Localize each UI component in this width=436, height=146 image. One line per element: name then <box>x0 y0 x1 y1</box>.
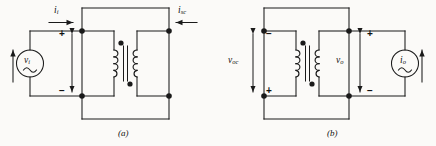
panel-b-dot-primary <box>300 40 305 45</box>
panel-a-dot-primary <box>118 40 123 45</box>
panel-b-voc-bottom-sign: + <box>266 86 272 96</box>
panel-a-dot-secondary <box>127 81 132 86</box>
circuit-diagram-svg <box>0 0 436 146</box>
caption-panel-a: (a) <box>118 128 129 138</box>
panel-b-node-top-right <box>346 28 352 34</box>
label-input-current: ii <box>54 6 58 16</box>
label-short-circuit-current: isc <box>178 6 186 16</box>
panel-b-dot-secondary <box>309 81 314 86</box>
label-output-voltage: vo <box>336 56 343 66</box>
panel-a-minus-sign: − <box>59 86 65 96</box>
label-source-current-io: io <box>400 56 406 66</box>
panel-a-node-top-left <box>79 28 85 34</box>
panel-b-vo-top-sign: + <box>367 29 373 39</box>
panel-a-node-bottom-left <box>79 93 85 99</box>
panel-b-vo-bottom-sign: − <box>367 86 373 96</box>
label-open-circuit-voltage: voc <box>228 56 238 66</box>
caption-panel-b: (b) <box>327 128 338 138</box>
panel-a-node-top-right <box>166 28 172 34</box>
panel-b-voc-top-sign: − <box>266 29 272 39</box>
canvas-background <box>0 0 436 146</box>
label-source-voltage-vi: vi <box>24 56 30 66</box>
panel-a-plus-sign: + <box>59 29 65 39</box>
figure-canvas: ii isc vi + − (a) voc − + vo + − io (b) <box>0 0 436 146</box>
panel-a-node-bottom-right <box>166 93 172 99</box>
panel-b-node-bottom-right <box>346 93 352 99</box>
